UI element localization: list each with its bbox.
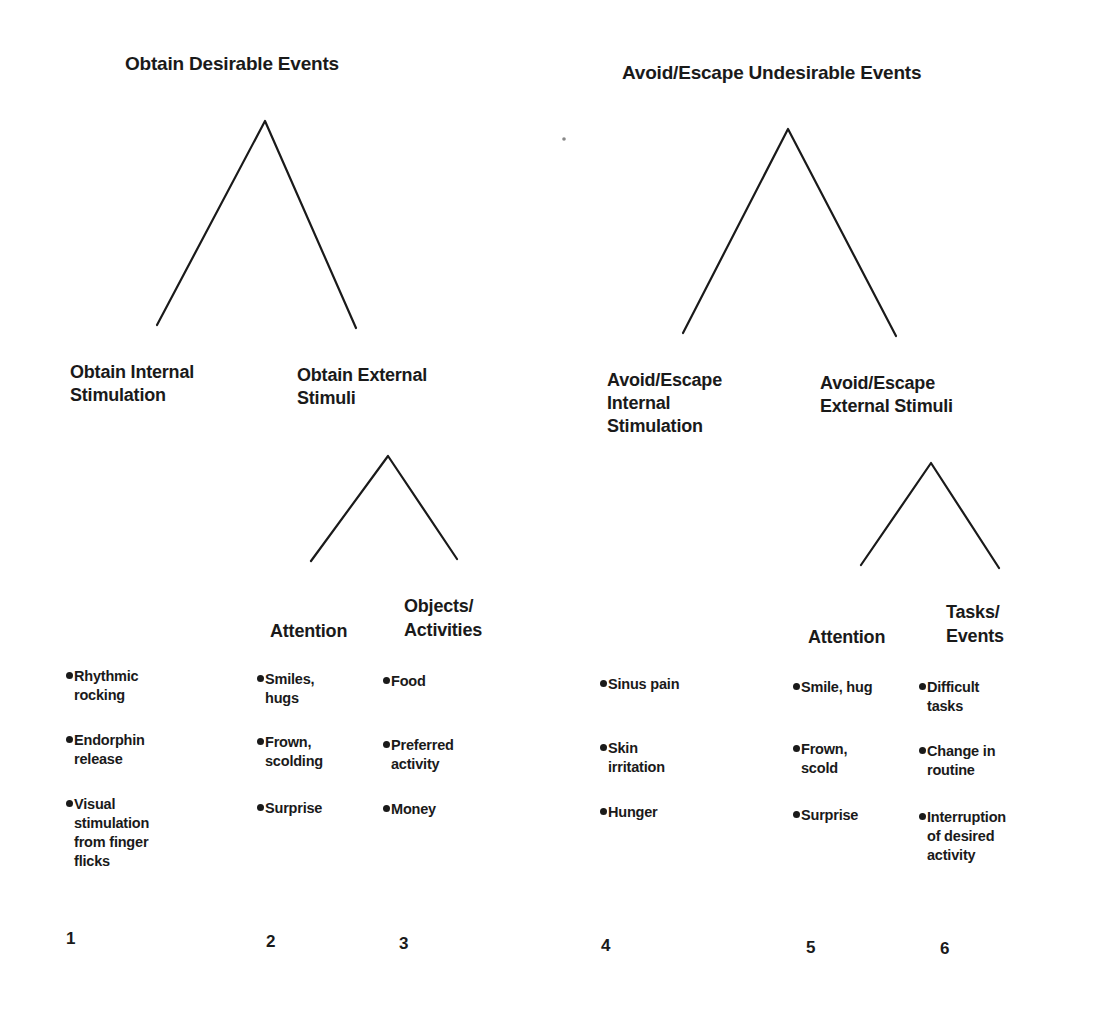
list-item-surprise: Surprise bbox=[257, 799, 385, 818]
list-item-difficult-tasks: Difficult tasks bbox=[919, 678, 1077, 716]
branch-obtain-external-stimuli: Obtain External Stimuli bbox=[297, 364, 427, 410]
list-item-smile-hug: Smile, hug bbox=[793, 678, 931, 697]
right-root-branch-lines bbox=[683, 129, 896, 336]
category-objects-activities: Objects/ Activities bbox=[404, 594, 482, 642]
list-item-change-in-routine: Change in routine bbox=[919, 742, 1077, 780]
bullet-icon bbox=[793, 683, 800, 690]
bullet-icon bbox=[257, 804, 264, 811]
list-item-frown-scolding: Frown, scolding bbox=[257, 733, 385, 771]
list-item-hunger: Hunger bbox=[600, 803, 738, 822]
list-item-sinus-pain: Sinus pain bbox=[600, 675, 738, 694]
list-item-smiles-hugs: Smiles, hugs bbox=[257, 670, 385, 708]
category-tasks-events: Tasks/ Events bbox=[946, 600, 1004, 648]
bullet-icon bbox=[793, 811, 800, 818]
column-number-5: 5 bbox=[806, 938, 815, 958]
bullet-icon bbox=[793, 745, 800, 752]
list-item-endorphin-release: Endorphin release bbox=[66, 731, 194, 769]
list-item-interruption-of-desired-activity: Interruption of desired activity bbox=[919, 808, 1077, 865]
list-item-visual-stimulation: Visual stimulation from finger flicks bbox=[66, 795, 194, 871]
branch-avoid-escape-internal-stimulation: Avoid/Escape Internal Stimulation bbox=[607, 369, 722, 438]
column-number-1: 1 bbox=[66, 929, 75, 949]
list-item-rhythmic-rocking: Rhythmic rocking bbox=[66, 667, 194, 705]
list-item-skin-irritation: Skin irritation bbox=[600, 739, 738, 777]
column-number-3: 3 bbox=[399, 934, 408, 954]
bullet-icon bbox=[383, 677, 390, 684]
bullet-icon bbox=[919, 747, 926, 754]
avoid-external-branch-lines bbox=[861, 463, 999, 568]
bullet-icon bbox=[66, 672, 73, 679]
column-number-6: 6 bbox=[940, 939, 949, 959]
obtain-external-branch-lines bbox=[311, 456, 457, 561]
branch-obtain-internal-stimulation: Obtain Internal Stimulation bbox=[70, 361, 194, 407]
bullet-icon bbox=[919, 683, 926, 690]
list-item-food: Food bbox=[383, 672, 511, 691]
list-item-frown-scold: Frown, scold bbox=[793, 740, 931, 778]
bullet-icon bbox=[383, 741, 390, 748]
left-root-branch-lines bbox=[157, 121, 356, 328]
bullet-icon bbox=[600, 680, 607, 687]
speck bbox=[562, 137, 566, 141]
bullet-icon bbox=[383, 805, 390, 812]
category-obtain-attention: Attention bbox=[270, 619, 347, 643]
bullet-icon bbox=[257, 738, 264, 745]
column-number-4: 4 bbox=[601, 936, 610, 956]
bullet-icon bbox=[919, 813, 926, 820]
category-avoid-attention: Attention bbox=[808, 625, 885, 649]
branch-avoid-escape-external-stimuli: Avoid/Escape External Stimuli bbox=[820, 372, 953, 418]
bullet-icon bbox=[600, 744, 607, 751]
bullet-icon bbox=[600, 808, 607, 815]
root-obtain-desirable-events: Obtain Desirable Events bbox=[125, 53, 339, 75]
bullet-icon bbox=[66, 736, 73, 743]
bullet-icon bbox=[257, 675, 264, 682]
list-item-preferred-activity: Preferred activity bbox=[383, 736, 511, 774]
bullet-icon bbox=[66, 800, 73, 807]
root-avoid-escape-undesirable-events: Avoid/Escape Undesirable Events bbox=[622, 62, 921, 84]
list-item-money: Money bbox=[383, 800, 511, 819]
column-number-2: 2 bbox=[266, 932, 275, 952]
list-item-surprise-avoid: Surprise bbox=[793, 806, 931, 825]
